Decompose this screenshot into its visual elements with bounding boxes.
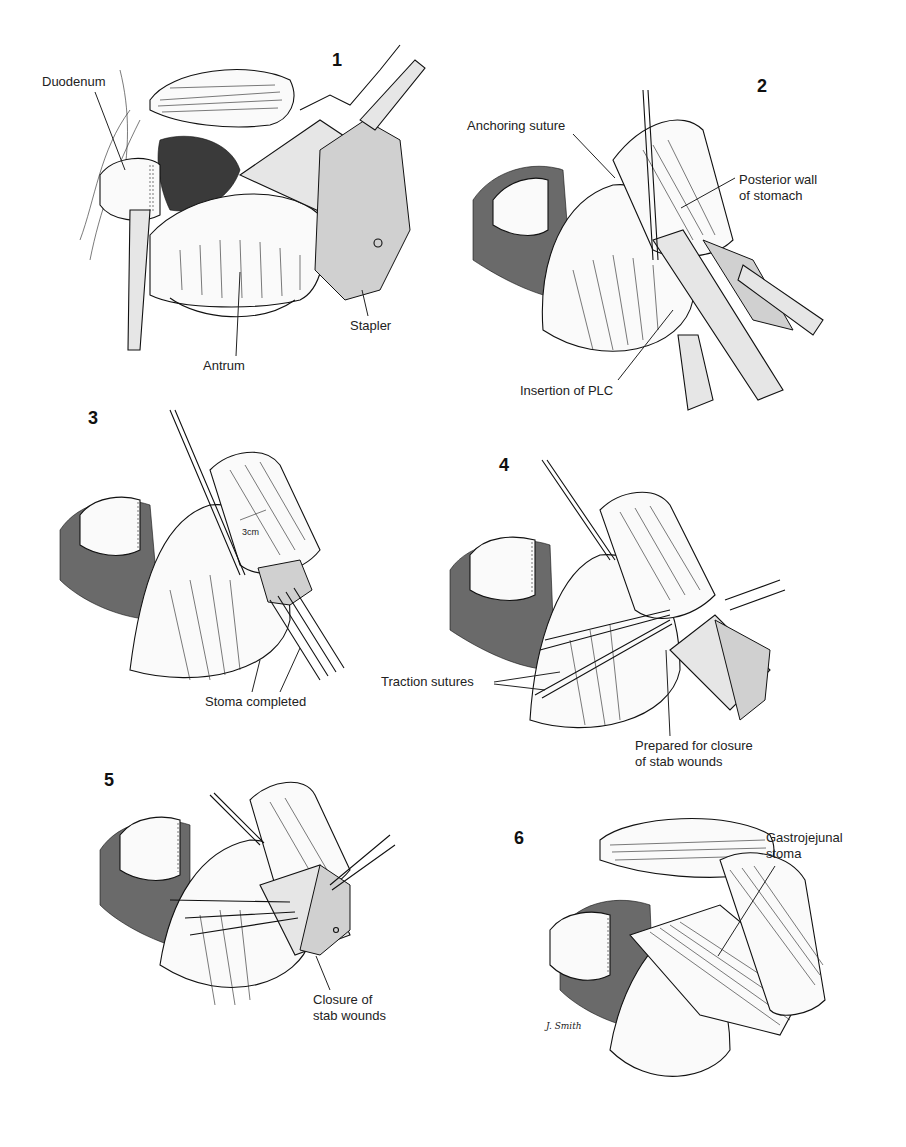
illustration-closure-of-stab-wounds [60,720,460,1140]
annotation-3cm: 3cm [242,524,259,540]
label-anchoring-suture: Anchoring suture [467,118,565,134]
panel-6: 6 Gastrojejunal stoma J. Smith [480,800,900,1140]
panel-5: 5 Closure of stab wounds [60,720,460,1140]
label-gastrojejunal-stoma: Gastrojejunal stoma [766,830,843,862]
label-closure-of-stab-wounds: Closure of stab wounds [313,992,386,1024]
label-prepared-for-closure-of-stab-wounds: Prepared for closure of stab wounds [635,738,753,770]
label-stoma-completed: Stoma completed [205,694,306,710]
panel-number: 4 [499,455,509,476]
illustration-insertion-of-plc [453,0,906,420]
panel-2: 2 Anchoring suture Posterior wall of sto… [453,0,906,420]
label-traction-sutures: Traction sutures [381,674,474,690]
artist-signature: J. Smith [546,1018,582,1034]
panel-number: 1 [332,50,342,71]
label-duodenum: Duodenum [42,74,106,90]
label-stapler: Stapler [350,318,391,334]
label-antrum: Antrum [203,358,245,374]
panel-1: 1 Duodenum Stapler Antrum [0,0,453,380]
panel-number: 2 [757,76,767,97]
panel-number: 5 [104,770,114,791]
panel-number: 3 [88,408,98,429]
label-insertion-of-plc: Insertion of PLC [520,383,613,399]
panel-number: 6 [514,828,524,849]
label-posterior-wall-of-stomach: Posterior wall of stomach [739,172,817,204]
